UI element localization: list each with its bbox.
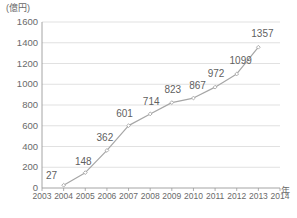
y-axis-tick-label: 400	[0, 142, 38, 152]
x-axis-tick-label: 2005	[76, 191, 95, 202]
y-axis-tick-label: 800	[0, 100, 38, 110]
y-axis-tick-label: 1200	[0, 59, 38, 69]
plot-area	[42, 22, 280, 188]
y-axis-tick-label: 1600	[0, 17, 38, 27]
plot-svg	[42, 22, 280, 188]
gridlines	[42, 22, 280, 167]
x-axis-tick-label: 2011	[206, 191, 224, 202]
line-chart: (億円) 年 02004006008001000120014001600 271…	[0, 0, 297, 218]
x-axis-tick-label: 2006	[97, 191, 116, 202]
x-axis-tick-label: 2010	[184, 191, 203, 202]
x-axis-tick-label: 2007	[119, 191, 138, 202]
x-axis-tick-label: 2012	[227, 191, 246, 202]
series-line	[64, 47, 259, 185]
x-axis-tick-label: 2003	[33, 191, 52, 202]
y-axis-tick-labels: 02004006008001000120014001600	[0, 22, 38, 188]
x-axis-tick-label: 2004	[54, 191, 73, 202]
y-axis-tick-label: 1000	[0, 79, 38, 89]
y-axis-tick-label: 200	[0, 162, 38, 172]
y-axis-tick-label: 600	[0, 121, 38, 131]
y-axis-unit-label: (億円)	[6, 3, 30, 14]
x-axis-tick-label: 2008	[141, 191, 160, 202]
x-axis-tick-label: 2014	[271, 191, 290, 202]
x-axis-tick-label: 2009	[162, 191, 181, 202]
x-axis-tick-label: 2013	[249, 191, 268, 202]
x-axis-tick-labels: 2003200420052006200720082009201020112012…	[42, 191, 280, 205]
y-axis-tick-label: 1400	[0, 38, 38, 48]
